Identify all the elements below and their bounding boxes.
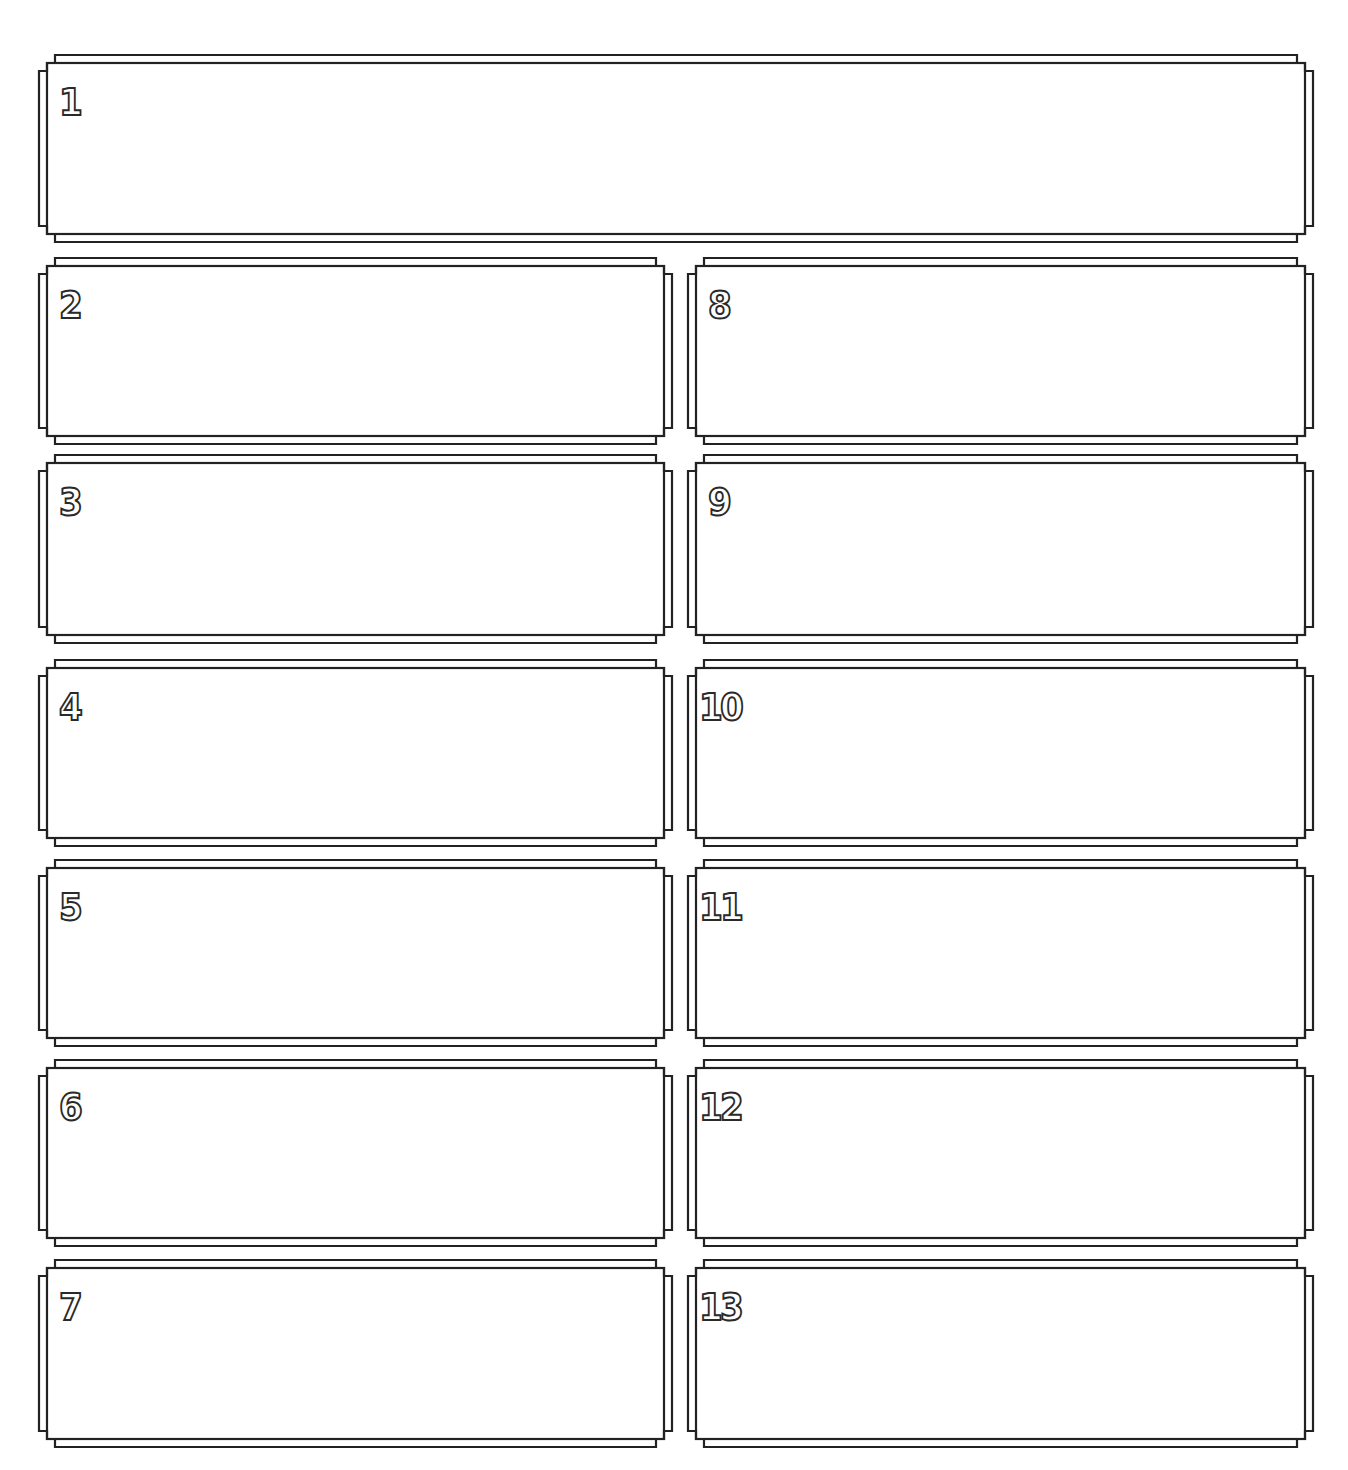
- frame-12: 12: [688, 1060, 1313, 1246]
- frame-border: [688, 258, 1313, 444]
- frame-number-label: 11: [699, 888, 741, 926]
- frame-border: [688, 660, 1313, 846]
- frame-border: [39, 258, 672, 444]
- frame-3: 3: [39, 455, 672, 643]
- frame-number-label: 3: [59, 483, 80, 521]
- frame-border: [688, 1260, 1313, 1447]
- frame-11: 11: [688, 860, 1313, 1046]
- frame-5: 5: [39, 860, 672, 1046]
- frame-border: [39, 660, 672, 846]
- frame-border: [39, 1060, 672, 1246]
- frame-number-label: 7: [59, 1288, 80, 1326]
- frame-number-label: 8: [708, 286, 729, 324]
- frame-border: [688, 1060, 1313, 1246]
- frame-border: [39, 55, 1313, 242]
- frame-border: [39, 860, 672, 1046]
- frame-6: 6: [39, 1060, 672, 1246]
- frame-border: [39, 455, 672, 643]
- frame-number-label: 10: [699, 688, 741, 726]
- frame-number-label: 4: [59, 688, 80, 726]
- frame-8: 8: [688, 258, 1313, 444]
- frame-4: 4: [39, 660, 672, 846]
- frame-number-label: 1: [59, 83, 80, 121]
- frame-2: 2: [39, 258, 672, 444]
- frame-number-label: 13: [699, 1288, 741, 1326]
- frame-border: [39, 1260, 672, 1447]
- frame-7: 7: [39, 1260, 672, 1447]
- frame-10: 10: [688, 660, 1313, 846]
- frame-border: [688, 860, 1313, 1046]
- frame-border: [688, 455, 1313, 643]
- frame-number-label: 12: [699, 1088, 741, 1126]
- frame-number-label: 9: [708, 483, 729, 521]
- frame-1: 1: [39, 55, 1313, 242]
- frame-9: 9: [688, 455, 1313, 643]
- frame-number-label: 2: [59, 286, 80, 324]
- frame-number-label: 6: [59, 1088, 80, 1126]
- frame-13: 13: [688, 1260, 1313, 1447]
- frame-number-label: 5: [59, 888, 80, 926]
